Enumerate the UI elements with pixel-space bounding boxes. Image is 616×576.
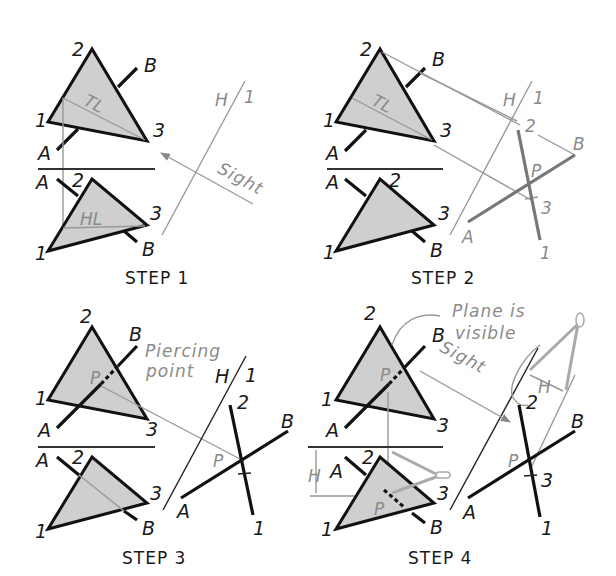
step-label: STEP 3 (122, 548, 186, 568)
tick-3 (524, 475, 537, 476)
label-b: B (430, 239, 443, 261)
label-aux-1: 1 (540, 243, 551, 263)
panel-step-3: 2 1 3 A B P Piercing point 2 A 3 1 B H 1… (34, 305, 294, 568)
label-p-top: P (380, 365, 391, 385)
label-dim-h-top: H (538, 377, 551, 397)
line-ab-top-upper (118, 68, 137, 87)
label-2: 2 (80, 305, 92, 327)
line-ab-bottom-lower (412, 231, 425, 242)
label-fold-h: H (503, 90, 516, 110)
label-3: 3 (437, 414, 449, 436)
visible-note-line2: visible (455, 323, 516, 343)
label-a: A (324, 171, 339, 193)
line-ab-top-lower (345, 130, 366, 151)
label-3: 3 (150, 202, 162, 224)
label-1: 1 (35, 109, 47, 131)
label-sight: Sight (215, 158, 268, 199)
label-1: 1 (35, 520, 47, 542)
piercing-note-line2: point (145, 361, 195, 381)
label-2: 2 (364, 302, 376, 324)
line-ab-top-lower (57, 129, 78, 150)
diagram-canvas: 2 1 3 A B TL 2 A 3 1 B HL H 1 Sight STEP… (0, 0, 616, 576)
label-aux-1: 1 (541, 517, 553, 539)
panel-step-4: 2 1 3 A B P Plane is visible Sight H 2 A… (308, 301, 584, 568)
label-aux-a: A (461, 501, 476, 523)
label-1: 1 (323, 109, 335, 131)
tick-3 (238, 473, 251, 474)
label-aux-3: 3 (541, 469, 553, 491)
label-aux-p: P (213, 451, 224, 471)
step-label: STEP 2 (411, 268, 475, 288)
label-a: A (324, 419, 339, 441)
label-a: A (324, 142, 339, 164)
label-3: 3 (438, 202, 450, 224)
projector-b-aux (538, 135, 575, 155)
label-3: 3 (437, 482, 449, 504)
panel-step-2: 2 1 3 A B TL 2 A 3 1 B H 1 2 B P 3 A 1 S… (323, 38, 585, 288)
label-aux-1: 1 (253, 517, 265, 539)
line-ab-bottom-upper (345, 179, 366, 196)
label-aux-b: B (571, 410, 584, 432)
label-2: 2 (72, 446, 84, 468)
step-label: STEP 4 (408, 548, 472, 568)
line-ab-aux (468, 155, 575, 222)
line-ab-bottom-lower (124, 231, 137, 242)
label-hl: HL (80, 209, 102, 229)
label-aux-a: A (461, 227, 474, 247)
step-label: STEP 1 (125, 268, 189, 288)
label-fold-1: 1 (533, 88, 544, 108)
label-fold-1: 1 (244, 87, 255, 107)
label-2: 2 (360, 38, 372, 60)
label-2: 2 (389, 169, 401, 191)
label-aux-2: 2 (237, 391, 249, 413)
fold-line-h-1 (162, 81, 245, 235)
line-ab-bottom-lower (124, 511, 137, 520)
label-b: B (129, 323, 142, 345)
label-dim-h-left: H (308, 466, 321, 486)
label-2: 2 (72, 169, 84, 191)
line-ab-top-upper (404, 346, 425, 368)
label-aux-b: B (281, 410, 294, 432)
label-fold-h: H (215, 90, 228, 110)
label-aux-p: P (508, 451, 519, 471)
plane-123-bottom-view (336, 179, 434, 251)
label-a: A (36, 419, 51, 441)
label-a: A (34, 171, 49, 193)
line-ab-aux (468, 431, 575, 498)
label-fold-h: H (215, 365, 229, 387)
label-1: 1 (323, 241, 335, 263)
visible-note-line1: Plane is (452, 301, 526, 321)
label-aux-a: A (175, 500, 190, 522)
line-ab-top-upper (118, 346, 137, 366)
label-fold-1: 1 (245, 364, 257, 386)
line-ab-top-upper (406, 68, 425, 87)
sight-arrow (420, 371, 510, 422)
label-aux-b: B (573, 134, 585, 154)
label-a: A (34, 449, 49, 471)
label-2: 2 (72, 38, 84, 60)
dividers-head-icon (436, 472, 450, 478)
piercing-note-line1: Piercing (145, 341, 221, 361)
line-ab-bottom-lower (412, 513, 425, 523)
label-a: A (328, 460, 343, 482)
fold-line-h-1 (450, 81, 532, 235)
label-b: B (430, 516, 443, 538)
label-1: 1 (35, 387, 47, 409)
label-p-top: P (90, 368, 101, 388)
label-aux-2: 2 (525, 116, 536, 136)
label-3: 3 (146, 418, 158, 440)
label-1: 1 (321, 518, 333, 540)
label-3: 3 (440, 119, 452, 141)
label-b: B (142, 238, 155, 260)
label-p-bottom: P (374, 499, 385, 519)
label-3: 3 (153, 119, 165, 141)
panel-step-1: 2 1 3 A B TL 2 A 3 1 B HL H 1 Sight STEP… (34, 38, 267, 288)
projector-p (101, 386, 242, 460)
label-1: 1 (321, 388, 333, 410)
label-b: B (432, 48, 445, 70)
line-ab-aux (181, 431, 288, 498)
label-a: A (36, 142, 51, 164)
dividers-head-icon (576, 313, 584, 327)
label-aux-2: 2 (526, 391, 538, 413)
label-3: 3 (150, 482, 162, 504)
